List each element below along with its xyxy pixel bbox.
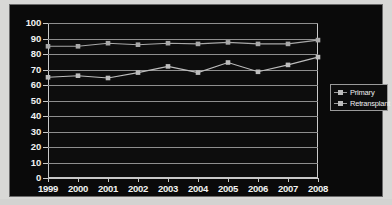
data-point-marker bbox=[226, 60, 231, 65]
data-point-marker bbox=[76, 73, 81, 78]
data-point-marker bbox=[166, 41, 171, 46]
legend-item-primary: Primary bbox=[334, 87, 384, 98]
legend-label-primary: Primary bbox=[350, 89, 374, 97]
data-point-marker bbox=[106, 76, 111, 81]
series-line bbox=[48, 40, 318, 46]
bottom-strip bbox=[0, 199, 392, 205]
chart-figure: 0102030405060708090100 19992000200120022… bbox=[0, 0, 392, 205]
data-point-marker bbox=[256, 70, 261, 75]
data-point-marker bbox=[226, 40, 231, 45]
chart-legend: Primary Retransplant bbox=[330, 84, 388, 111]
series-retransplant bbox=[46, 55, 321, 80]
legend-swatch-primary bbox=[334, 92, 347, 93]
data-point-marker bbox=[196, 70, 201, 75]
legend-label-retransplant: Retransplant bbox=[350, 100, 390, 108]
legend-item-retransplant: Retransplant bbox=[334, 98, 384, 109]
data-point-marker bbox=[106, 41, 111, 46]
data-point-marker bbox=[136, 70, 141, 75]
data-point-marker bbox=[256, 42, 261, 47]
data-point-marker bbox=[46, 44, 51, 49]
data-point-marker bbox=[166, 64, 171, 69]
data-point-marker bbox=[286, 63, 291, 68]
data-point-marker bbox=[316, 38, 321, 43]
data-series-layer bbox=[10, 5, 384, 198]
series-primary bbox=[46, 38, 321, 49]
data-point-marker bbox=[46, 75, 51, 80]
series-line bbox=[48, 57, 318, 78]
data-point-marker bbox=[76, 44, 81, 49]
data-point-marker bbox=[286, 42, 291, 47]
legend-swatch-retransplant bbox=[334, 103, 347, 104]
data-point-marker bbox=[196, 42, 201, 47]
data-point-marker bbox=[316, 55, 321, 60]
chart-plate: 0102030405060708090100 19992000200120022… bbox=[9, 4, 383, 197]
data-point-marker bbox=[136, 42, 141, 47]
